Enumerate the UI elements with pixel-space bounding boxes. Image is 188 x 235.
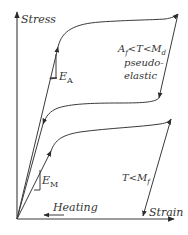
stress-axis-label: Stress [21, 13, 56, 26]
austenite-loading-line [17, 47, 58, 219]
pseudoelastic-label-line2: elastic [124, 70, 157, 81]
lower-unloading-line [143, 119, 171, 216]
strain-axis-label: Strain [149, 206, 183, 219]
modulus-label-martensite: EM [41, 174, 58, 189]
pseudoelastic-label-line1: pseudo- [124, 57, 164, 68]
pseudoelastic-condition-label: Af<T<Md [117, 43, 167, 57]
modulus-label-austenite: EA [58, 70, 73, 85]
lower-loading-plateau [51, 119, 171, 151]
upper-return-line [17, 124, 43, 219]
stress-strain-diagram: Stress Strain Heating EA EM Af<T<Md pseu… [0, 0, 188, 235]
upper-unloading-plateau [43, 98, 159, 124]
martensite-condition-label: T<Mf [122, 172, 151, 186]
heating-label: Heating [52, 201, 98, 214]
